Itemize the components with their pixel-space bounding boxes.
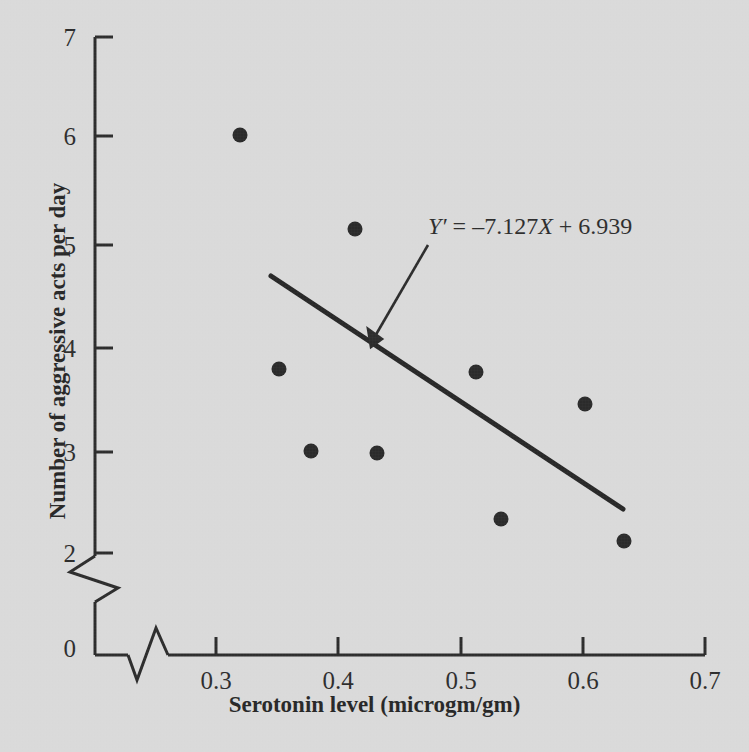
data-point: [304, 444, 319, 459]
data-point: [469, 365, 484, 380]
data-point: [494, 512, 509, 527]
y-tick-label-0: 0: [48, 636, 76, 661]
y-axis: [70, 37, 118, 655]
data-point: [370, 446, 385, 461]
equation-intercept: + 6.939: [553, 213, 633, 239]
x-tick-label-0.3: 0.3: [200, 668, 231, 693]
data-point: [348, 222, 363, 237]
x-tick-label-0.6: 0.6: [567, 668, 598, 693]
data-point: [617, 534, 632, 549]
plot-canvas: [0, 0, 749, 752]
y-tick-label-7: 7: [48, 25, 76, 50]
equation-y-symbol: Y′: [428, 213, 447, 239]
y-axis-ticks: [95, 136, 113, 553]
data-point: [578, 397, 593, 412]
regression-line: [271, 276, 623, 509]
x-tick-label-0.4: 0.4: [322, 668, 353, 693]
x-axis-title: Serotonin level (microgm/gm): [0, 692, 749, 718]
annotation-arrow: [368, 245, 428, 347]
regression-equation-label: Y′ = –7.127X + 6.939: [428, 213, 632, 240]
data-point: [233, 128, 248, 143]
x-axis: [95, 628, 705, 680]
x-tick-label-0.5: 0.5: [445, 668, 476, 693]
x-tick-label-0.7: 0.7: [689, 668, 720, 693]
y-axis-title: Number of aggressive acts per day: [45, 141, 71, 561]
equation-operator: = –7.127: [447, 213, 539, 239]
data-points: [233, 128, 632, 549]
x-axis-ticks: [216, 637, 583, 655]
figure-scatter-plot: 7 6 5 4 3 2 0 0.3 0.4 0.5 0.6 0.7 Seroto…: [0, 0, 749, 752]
equation-x-symbol: X: [538, 213, 553, 239]
data-point: [272, 362, 287, 377]
